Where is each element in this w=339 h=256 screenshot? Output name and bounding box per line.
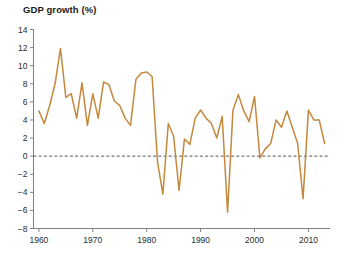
y-axis-tick-label: 8	[23, 79, 28, 89]
y-axis-tick-label: −2	[18, 169, 28, 179]
y-axis-tick-label: 6	[23, 97, 28, 107]
y-axis-tick-label: −8	[18, 224, 28, 234]
y-axis-tick-label: 10	[18, 61, 28, 71]
x-axis: 196019701980199020002010	[29, 229, 330, 245]
y-axis-tick-label: 2	[23, 133, 28, 143]
chart-container: GDP growth (%) −8−6−4−202468101214 19601…	[0, 0, 339, 256]
y-axis: −8−6−4−202468101214	[18, 25, 34, 234]
gdp-growth-line-series	[39, 49, 325, 213]
x-axis-tick-label: 2000	[245, 235, 264, 245]
x-axis-tick-label: 1960	[29, 235, 48, 245]
y-axis-tick-label: −6	[18, 205, 28, 215]
x-axis-tick-label: 1970	[83, 235, 102, 245]
y-axis-tick-label: 0	[23, 151, 28, 161]
y-axis-tick-label: 4	[23, 115, 28, 125]
y-axis-tick-label: −4	[18, 187, 28, 197]
y-axis-tick-label: 14	[18, 25, 28, 35]
chart-plot-area: −8−6−4−202468101214 19601970198019902000…	[0, 0, 339, 256]
x-axis-tick-label: 1990	[191, 235, 210, 245]
x-axis-tick-label: 2010	[299, 235, 318, 245]
x-axis-tick-label: 1980	[137, 235, 156, 245]
y-axis-tick-label: 12	[18, 43, 28, 53]
